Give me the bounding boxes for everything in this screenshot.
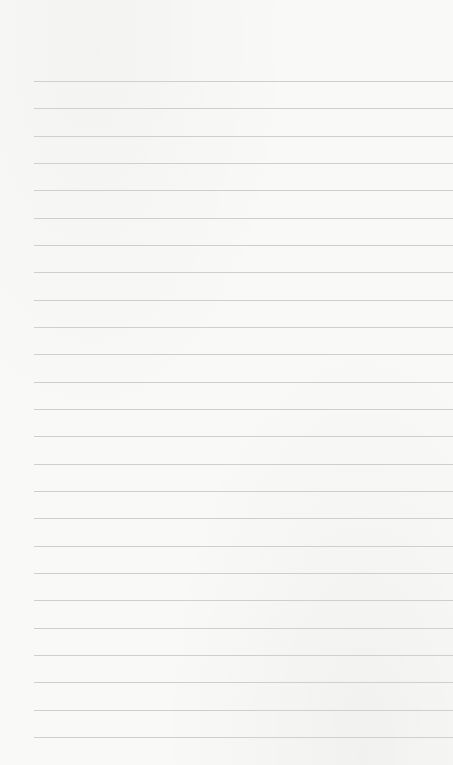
ruled-line xyxy=(34,464,453,465)
ruled-line xyxy=(34,272,453,273)
ruled-line xyxy=(34,81,453,82)
ruled-line xyxy=(34,600,453,601)
ruled-line xyxy=(34,218,453,219)
lined-paper-sheet xyxy=(0,0,453,765)
ruled-line xyxy=(34,409,453,410)
ruled-line xyxy=(34,655,453,656)
ruled-line xyxy=(34,682,453,683)
ruled-line xyxy=(34,163,453,164)
ruled-line xyxy=(34,737,453,738)
ruled-line xyxy=(34,327,453,328)
ruled-line xyxy=(34,190,453,191)
ruled-line xyxy=(34,628,453,629)
ruled-line xyxy=(34,136,453,137)
ruled-line xyxy=(34,245,453,246)
ruled-line xyxy=(34,710,453,711)
ruled-line xyxy=(34,546,453,547)
ruled-line xyxy=(34,436,453,437)
ruled-line xyxy=(34,300,453,301)
ruled-line xyxy=(34,382,453,383)
ruled-line xyxy=(34,108,453,109)
ruled-line xyxy=(34,354,453,355)
ruled-line xyxy=(34,573,453,574)
ruled-line xyxy=(34,518,453,519)
ruled-line xyxy=(34,491,453,492)
